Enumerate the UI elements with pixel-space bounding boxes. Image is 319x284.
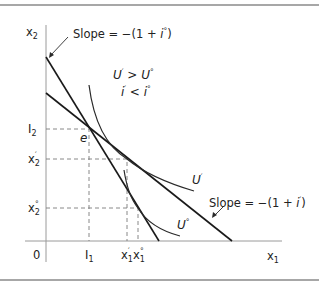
y-tick-I2: I2 — [28, 122, 37, 138]
endowment-guide — [46, 129, 89, 241]
orig-choice-guide — [46, 208, 138, 241]
x-axis-label: x1 — [267, 249, 279, 265]
x-tick-I1: I1 — [85, 248, 94, 264]
curve-label-U-degree: U° — [177, 217, 190, 232]
slope-label-original: Slope = −(1 + i°) — [73, 26, 172, 41]
utility-comparison: U′ > U° — [113, 67, 154, 82]
x-tick-x1-prime: x1′ — [121, 246, 133, 264]
x-tick-x1-degree: x1° — [133, 246, 145, 264]
y-tick-x2-degree: x2° — [28, 199, 40, 217]
endowment-point-label: e — [80, 131, 87, 145]
y-tick-x2-prime: x2′ — [28, 150, 40, 168]
rate-comparison: i′ < i° — [121, 84, 151, 99]
new-choice-guide — [46, 159, 127, 241]
indifference-curve-U-prime — [89, 85, 194, 191]
indifference-curve-U-degree — [124, 170, 180, 236]
slope-label-new: Slope = −(1 + i′) — [209, 195, 306, 210]
intertemporal-choice-diagram: x2 x1 0 I2 x2′ x2° I1 x1′ x1° e Slope = … — [0, 0, 319, 284]
y-axis-label: x2 — [26, 25, 38, 41]
curve-label-U-prime: U′ — [192, 172, 203, 187]
slope-arrow-original — [49, 37, 68, 58]
origin-label: 0 — [33, 248, 40, 262]
